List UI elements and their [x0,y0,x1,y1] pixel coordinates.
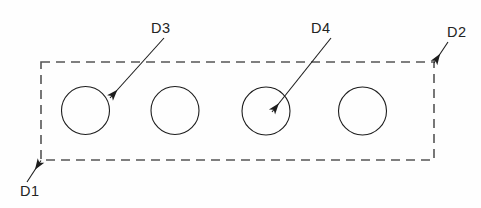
hole-circle-4 [339,87,387,135]
callout-label-d2: D2 [447,24,467,40]
leader-line-d4 [272,38,331,112]
hole-circle-1 [62,87,110,135]
technical-drawing-canvas: D1 D2 D3 D4 [0,0,481,208]
plate-outline-rect [41,62,434,160]
hole-circle-3 [242,87,290,135]
leader-line-d3 [110,38,164,98]
leader-line-d2 [434,42,448,63]
callout-label-d1: D1 [20,183,40,199]
callout-label-d3: D3 [151,20,171,36]
engineering-drawing: D1 D2 D3 D4 [0,0,481,208]
leader-line-d1 [27,161,41,183]
callout-label-d4: D4 [311,20,331,36]
hole-circle-2 [151,87,199,135]
